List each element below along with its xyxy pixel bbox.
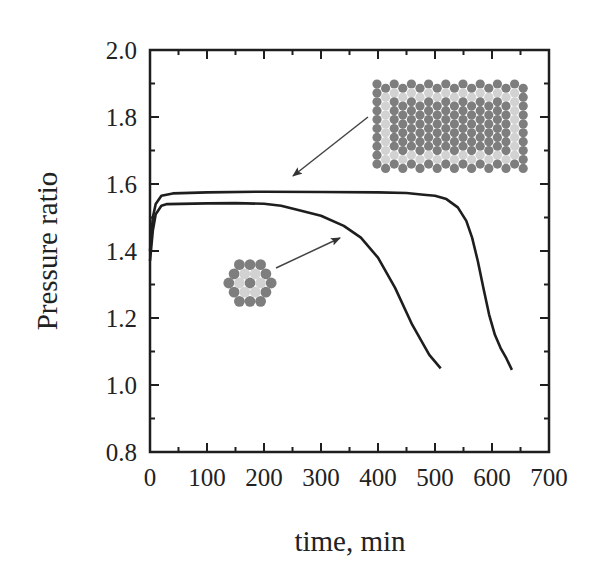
particle-circle bbox=[501, 102, 510, 111]
particle-circle bbox=[519, 155, 528, 164]
particle-circle bbox=[510, 124, 519, 133]
particle-circle bbox=[433, 119, 442, 128]
particle-circle bbox=[458, 124, 467, 133]
particle-circle bbox=[229, 268, 240, 279]
particle-circle bbox=[261, 268, 272, 279]
particle-circle bbox=[458, 160, 467, 169]
particle-circle bbox=[234, 259, 245, 270]
particle-circle bbox=[450, 119, 459, 128]
particle-circle bbox=[450, 164, 459, 173]
particle-circle bbox=[424, 160, 433, 169]
particle-circle bbox=[441, 106, 450, 115]
y-axis-title: Pressure ratio bbox=[31, 172, 63, 331]
particle-circle bbox=[398, 155, 407, 164]
particle-circle bbox=[415, 155, 424, 164]
particle-circle bbox=[458, 79, 467, 88]
particle-circle bbox=[372, 160, 381, 169]
particle-circle bbox=[415, 164, 424, 173]
particle-circle bbox=[484, 119, 493, 128]
particle-circle bbox=[519, 146, 528, 155]
particle-circle bbox=[433, 155, 442, 164]
particle-circle bbox=[501, 164, 510, 173]
particle-circle bbox=[390, 79, 399, 88]
y-tick-label: 1.8 bbox=[106, 104, 137, 131]
particle-circle bbox=[433, 110, 442, 119]
particle-circle bbox=[510, 106, 519, 115]
particle-circle bbox=[424, 133, 433, 142]
particle-circle bbox=[519, 128, 528, 137]
particle-circle bbox=[433, 137, 442, 146]
particle-circle bbox=[381, 128, 390, 137]
particle-circle bbox=[381, 84, 390, 93]
x-tick-label: 600 bbox=[473, 464, 511, 491]
particle-circle bbox=[441, 151, 450, 160]
data-series bbox=[150, 192, 512, 370]
particle-circle bbox=[234, 278, 245, 289]
arrow-icon-large-inset bbox=[293, 117, 368, 176]
particle-circle bbox=[501, 84, 510, 93]
x-axis-tick-labels: 0100200300400500600700 bbox=[144, 464, 568, 491]
particle-circle bbox=[433, 102, 442, 111]
particle-circle bbox=[381, 93, 390, 102]
particle-circle bbox=[458, 106, 467, 115]
hexagonal-bundle-inset bbox=[223, 259, 276, 307]
x-tick-label: 100 bbox=[188, 464, 226, 491]
particle-circle bbox=[229, 287, 240, 298]
particle-circle bbox=[424, 124, 433, 133]
y-tick-label: 1.0 bbox=[106, 372, 137, 399]
particle-circle bbox=[372, 133, 381, 142]
particle-circle bbox=[501, 146, 510, 155]
particle-circle bbox=[407, 88, 416, 97]
particle-circle bbox=[467, 102, 476, 111]
arrow-icon-small-inset bbox=[276, 238, 340, 268]
particle-circle bbox=[381, 164, 390, 173]
particle-circle bbox=[381, 119, 390, 128]
particle-circle bbox=[493, 133, 502, 142]
particle-circle bbox=[450, 84, 459, 93]
particle-circle bbox=[424, 142, 433, 151]
particle-circle bbox=[245, 278, 256, 289]
particle-circle bbox=[398, 146, 407, 155]
y-tick-label: 1.4 bbox=[106, 238, 138, 265]
particle-circle bbox=[458, 97, 467, 106]
particle-circle bbox=[433, 164, 442, 173]
particle-circle bbox=[501, 128, 510, 137]
particle-circle bbox=[501, 110, 510, 119]
particle-circle bbox=[398, 102, 407, 111]
particle-circle bbox=[255, 296, 266, 307]
particle-circle bbox=[458, 151, 467, 160]
particle-circle bbox=[415, 93, 424, 102]
y-tick-label: 2.0 bbox=[106, 37, 137, 64]
particle-circle bbox=[493, 142, 502, 151]
particle-circle bbox=[501, 119, 510, 128]
particle-circle bbox=[372, 106, 381, 115]
particle-circle bbox=[398, 128, 407, 137]
particle-circle bbox=[450, 102, 459, 111]
particle-circle bbox=[372, 88, 381, 97]
particle-circle bbox=[390, 106, 399, 115]
x-tick-label: 700 bbox=[530, 464, 568, 491]
particle-circle bbox=[476, 151, 485, 160]
y-tick-label: 1.6 bbox=[106, 171, 137, 198]
particle-circle bbox=[450, 110, 459, 119]
particle-circle bbox=[510, 142, 519, 151]
particle-circle bbox=[441, 115, 450, 124]
particle-circle bbox=[372, 79, 381, 88]
particle-circle bbox=[372, 97, 381, 106]
particle-circle bbox=[424, 88, 433, 97]
particle-circle bbox=[424, 79, 433, 88]
particle-circle bbox=[398, 84, 407, 93]
particle-circle bbox=[510, 160, 519, 169]
y-axis-tick-labels: 0.81.01.21.41.61.82.0 bbox=[106, 37, 138, 466]
particle-circle bbox=[493, 115, 502, 124]
x-tick-label: 300 bbox=[302, 464, 340, 491]
particle-circle bbox=[476, 133, 485, 142]
particle-circle bbox=[484, 155, 493, 164]
particle-circle bbox=[510, 151, 519, 160]
particle-circle bbox=[407, 142, 416, 151]
particle-circle bbox=[390, 160, 399, 169]
particle-circle bbox=[266, 278, 277, 289]
series-small-bundle-line bbox=[150, 203, 441, 368]
particle-circle bbox=[441, 142, 450, 151]
particle-circle bbox=[372, 115, 381, 124]
